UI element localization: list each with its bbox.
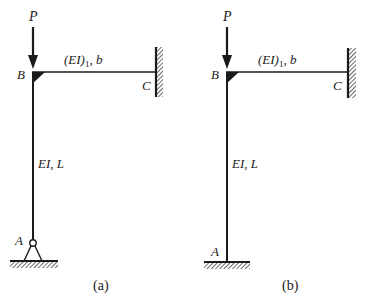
fixed-support-a-b bbox=[204, 262, 250, 269]
load-label-a: P bbox=[28, 9, 38, 24]
caption-a: (a) bbox=[93, 278, 109, 294]
beam-label-a: (EI)1, b bbox=[64, 52, 103, 69]
column-label-b: EI, L bbox=[231, 156, 258, 171]
joint-b-label-a: B bbox=[17, 67, 25, 82]
joint-a-label-a: A bbox=[14, 233, 23, 248]
fixed-support-c-b bbox=[348, 48, 356, 98]
frame-b: P B C (EI)1, b EI, L A (b) bbox=[204, 9, 356, 294]
joint-a-label-b: A bbox=[210, 244, 219, 259]
fixed-support-c-a bbox=[156, 47, 163, 97]
rigid-joint-b-a bbox=[32, 72, 45, 84]
rigid-joint-b-b bbox=[226, 72, 239, 84]
beam-label-b: (EI)1, b bbox=[258, 52, 297, 69]
frame-a: P B C (EI)1, b EI, L A (a) bbox=[10, 9, 163, 294]
column-label-a: EI, L bbox=[37, 156, 64, 171]
joint-b-label-b: B bbox=[211, 67, 219, 82]
load-arrow-icon bbox=[222, 27, 232, 69]
load-label-b: P bbox=[222, 9, 232, 24]
load-arrow-icon bbox=[28, 27, 38, 69]
frame-diagrams: P B C (EI)1, b EI, L A (a) P B bbox=[0, 0, 368, 302]
caption-b: (b) bbox=[282, 278, 299, 294]
joint-c-label-a: C bbox=[142, 78, 151, 93]
joint-c-label-b: C bbox=[333, 78, 342, 93]
